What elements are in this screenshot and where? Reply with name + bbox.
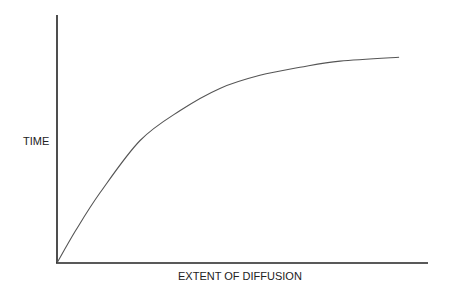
diffusion-chart: TIME EXTENT OF DIFFUSION: [0, 0, 451, 287]
series-line-diffusion-curve: [57, 57, 399, 263]
y-axis-label: TIME: [23, 135, 49, 147]
x-axis-label: EXTENT OF DIFFUSION: [178, 270, 302, 282]
